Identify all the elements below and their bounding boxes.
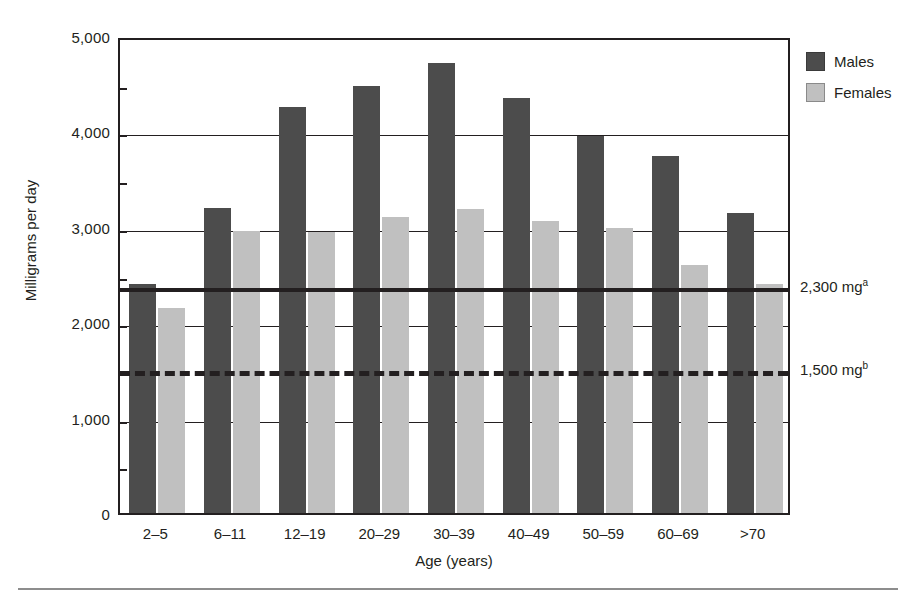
legend-label-females: Females — [834, 84, 892, 101]
x-axis-tick-label: >70 — [715, 524, 790, 544]
x-axis-tick-label: 20–29 — [342, 524, 417, 544]
bar-females — [382, 217, 409, 513]
y-axis-tick-label: 0 — [50, 507, 110, 522]
bar-males — [503, 98, 530, 513]
plot-area — [118, 38, 790, 515]
y-axis-tick-label: 1,000 — [50, 412, 110, 427]
y-axis-tick-label: 4,000 — [50, 125, 110, 140]
bar-females — [532, 221, 559, 513]
y-axis-tick-label: 2,000 — [50, 316, 110, 331]
reference-line-upper-limit — [120, 288, 788, 292]
reference-label-1500-footnote: b — [863, 360, 869, 371]
bar-females — [756, 284, 783, 513]
y-axis-tick-label: 3,000 — [50, 221, 110, 236]
reference-label-2300-footnote: a — [863, 277, 869, 288]
legend-swatch-females-icon — [806, 83, 825, 102]
reference-label-1500: 1,500 mgb — [800, 360, 868, 378]
legend: Males Females — [806, 52, 892, 114]
reference-label-1500-text: 1,500 mg — [800, 361, 863, 378]
x-axis-tick-label: 60–69 — [641, 524, 716, 544]
bar-females — [681, 265, 708, 513]
x-axis-tick-label: 40–49 — [491, 524, 566, 544]
bar-females — [158, 308, 185, 513]
x-axis-tick-label: 30–39 — [417, 524, 492, 544]
bar-males — [204, 208, 231, 513]
y-axis-tick-label: 5,000 — [50, 30, 110, 45]
y-axis-ticks: 01,0002,0003,0004,0005,000 — [42, 38, 110, 515]
x-axis-tick-label: 2–5 — [118, 524, 193, 544]
bar-females — [457, 209, 484, 513]
x-axis-tick-label: 6–11 — [193, 524, 268, 544]
bar-males — [727, 213, 754, 513]
bar-males — [652, 156, 679, 513]
x-axis-tick-label: 50–59 — [566, 524, 641, 544]
legend-item-males: Males — [806, 52, 892, 71]
reference-line-lower-limit — [120, 371, 788, 376]
bar-males — [353, 86, 380, 513]
bars-layer — [120, 40, 788, 513]
reference-label-2300-text: 2,300 mg — [800, 278, 863, 295]
bar-males — [577, 136, 604, 513]
x-axis-tick-label: 12–19 — [267, 524, 342, 544]
y-axis-title: Milligrams per day — [22, 141, 39, 341]
footer-divider — [18, 588, 898, 590]
reference-label-2300: 2,300 mga — [800, 277, 868, 295]
x-axis-title: Age (years) — [118, 552, 790, 569]
bar-males — [279, 107, 306, 513]
sodium-intake-bar-chart: Milligrams per day 01,0002,0003,0004,000… — [0, 0, 915, 605]
legend-label-males: Males — [834, 53, 874, 70]
legend-item-females: Females — [806, 83, 892, 102]
x-axis-tick-labels: 2–56–1112–1920–2930–3940–4950–5960–69>70 — [118, 524, 790, 548]
legend-swatch-males-icon — [806, 52, 825, 71]
bar-males — [129, 284, 156, 513]
